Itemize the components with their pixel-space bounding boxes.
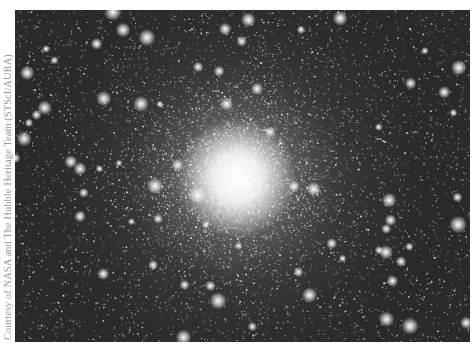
star-field-image <box>15 10 470 342</box>
cluster-photo <box>15 10 470 342</box>
credit-text: Courtesy of NASA and The Hubble Heritage… <box>2 54 13 340</box>
photo-credit: Courtesy of NASA and The Hubble Heritage… <box>0 0 15 345</box>
